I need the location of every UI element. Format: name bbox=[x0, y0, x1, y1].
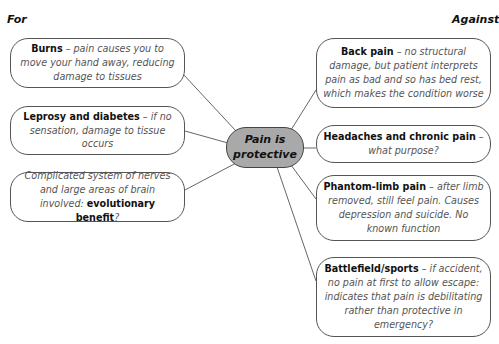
for-item-burns: Burns – pain causes you to move your han… bbox=[10, 38, 185, 88]
connector-burns bbox=[183, 74, 236, 131]
connector-phantom bbox=[291, 165, 316, 199]
connector-evolution bbox=[183, 162, 238, 191]
against-label: Against bbox=[452, 13, 499, 26]
connector-back-pain bbox=[291, 90, 316, 130]
for-label: For bbox=[7, 13, 27, 26]
against-item-headaches: Headaches and chronic pain – what purpos… bbox=[316, 125, 491, 163]
against-item-back-pain: Back pain – no structural damage, but pa… bbox=[316, 38, 491, 108]
against-item-phantom-limb: Phantom-limb pain – after limb removed, … bbox=[316, 175, 491, 241]
connector-battlefield bbox=[277, 167, 316, 281]
against-item-battlefield: Battlefield/sports – if accident, no pai… bbox=[316, 257, 491, 337]
central-node: Pain is protective bbox=[226, 127, 304, 168]
connector-leprosy bbox=[185, 131, 228, 143]
for-item-leprosy: Leprosy and diabetes – if no sensation, … bbox=[10, 106, 185, 155]
for-item-evolution: Complicated system of nerves and large a… bbox=[10, 172, 185, 222]
